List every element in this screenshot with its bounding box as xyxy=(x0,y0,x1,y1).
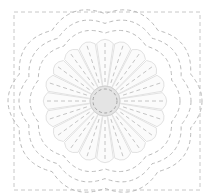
quilt-pattern-diagram xyxy=(0,0,210,196)
center-disc xyxy=(90,86,120,116)
flower-center xyxy=(90,86,120,116)
